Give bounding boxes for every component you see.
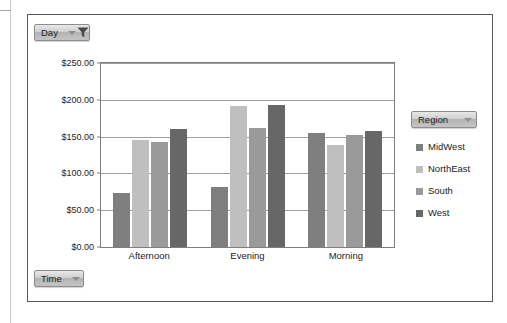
legend-item[interactable]: NorthEast xyxy=(416,158,496,180)
bar-midwest-morning[interactable] xyxy=(308,133,325,247)
x-axis-label: Afternoon xyxy=(100,251,198,261)
legend-item-label: West xyxy=(428,208,449,218)
y-axis-tick-label: $0.00 xyxy=(71,243,101,252)
legend-item-label: South xyxy=(428,186,453,196)
x-axis-label: Evening xyxy=(198,251,296,261)
y-axis-tick-label: $150.00 xyxy=(61,132,101,141)
plot-area: $0.00$50.00$100.00$150.00$200.00$250.00 xyxy=(100,62,395,248)
bar-group xyxy=(101,63,199,247)
time-field-filter-button[interactable]: Time xyxy=(34,270,84,287)
bar-series-container xyxy=(101,63,394,247)
x-axis-category-labels: AfternoonEveningMorning xyxy=(100,251,395,261)
chevron-down-icon xyxy=(464,118,472,122)
day-field-filter-button[interactable]: Day xyxy=(34,24,90,41)
gridline xyxy=(101,247,394,248)
chevron-down-icon xyxy=(72,277,80,281)
funnel-filter-icon xyxy=(77,27,89,38)
bar-midwest-evening[interactable] xyxy=(211,187,228,247)
bar-west-morning[interactable] xyxy=(365,131,382,247)
legend-swatch-icon xyxy=(416,188,423,195)
bar-group xyxy=(199,63,297,247)
y-axis-tick-label: $100.00 xyxy=(61,169,101,178)
bar-south-evening[interactable] xyxy=(249,128,266,247)
bar-west-afternoon[interactable] xyxy=(170,129,187,247)
region-field-filter-button[interactable]: Region xyxy=(411,111,477,128)
day-field-label: Day xyxy=(41,28,58,38)
bar-group xyxy=(296,63,394,247)
legend-item-label: NorthEast xyxy=(428,164,470,174)
y-axis-tick-label: $50.00 xyxy=(66,206,101,215)
y-axis-tick-label: $200.00 xyxy=(61,95,101,104)
bar-northeast-evening[interactable] xyxy=(230,106,247,247)
time-field-label: Time xyxy=(41,274,62,284)
bar-northeast-afternoon[interactable] xyxy=(132,140,149,247)
x-axis-label: Morning xyxy=(297,251,395,261)
bar-west-evening[interactable] xyxy=(268,105,285,247)
bar-northeast-morning[interactable] xyxy=(327,145,344,247)
page-edge-vertical-rule xyxy=(10,0,11,323)
bar-south-afternoon[interactable] xyxy=(151,142,168,247)
legend-item[interactable]: MidWest xyxy=(416,136,496,158)
chevron-down-icon xyxy=(68,31,76,35)
region-field-label: Region xyxy=(418,115,448,125)
bar-south-morning[interactable] xyxy=(346,135,363,247)
page-edge-horizontal-rule xyxy=(0,10,11,11)
legend-swatch-icon xyxy=(416,144,423,151)
legend-item[interactable]: West xyxy=(416,202,496,224)
legend-swatch-icon xyxy=(416,166,423,173)
legend-item-label: MidWest xyxy=(428,142,465,152)
legend-swatch-icon xyxy=(416,210,423,217)
legend-item[interactable]: South xyxy=(416,180,496,202)
bar-midwest-afternoon[interactable] xyxy=(113,193,130,247)
chart-legend: MidWestNorthEastSouthWest xyxy=(416,136,496,224)
pivot-chart-panel: Day Time Region $0.00$50.00$100.00$150.0… xyxy=(27,14,493,302)
y-axis-tick-label: $250.00 xyxy=(61,59,101,68)
